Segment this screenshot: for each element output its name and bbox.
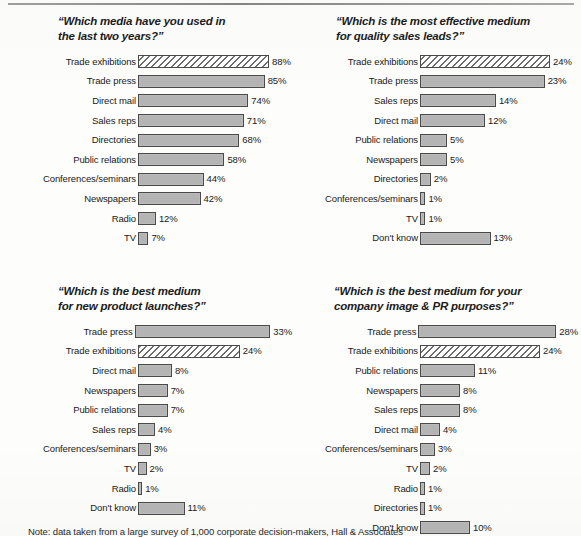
bar-value-label: 5% — [447, 155, 464, 165]
bar-value-label: 58% — [224, 155, 246, 165]
bar-category-label: Public relations — [296, 135, 420, 145]
bar-category-label: Directories — [6, 135, 138, 145]
bar-category-label: Direct mail — [296, 425, 420, 435]
bar-category-label: Sales reps — [296, 405, 420, 415]
bar-value-label: 4% — [155, 425, 172, 435]
chart-rows: Trade press28%Trade exhibitions24%Public… — [296, 322, 578, 538]
bar-category-label: TV — [296, 464, 420, 474]
bar-value-label: 88% — [269, 57, 291, 67]
bar-category-label: TV — [296, 214, 420, 224]
bar-value-label: 68% — [239, 135, 261, 145]
bar-row: TV7% — [6, 228, 292, 248]
bar-category-label: Sales reps — [6, 116, 138, 126]
bar-track: 11% — [420, 364, 578, 377]
bar-row: Radio1% — [6, 479, 292, 499]
bar-value-label: 7% — [168, 386, 185, 396]
bar-track: 44% — [138, 173, 292, 186]
bar-value-label: 4% — [440, 425, 457, 435]
bar-track: 7% — [138, 384, 292, 397]
bar-track: 4% — [420, 423, 578, 436]
bar-row: Public relations7% — [6, 400, 292, 420]
bar-value-label: 24% — [550, 57, 572, 67]
bar-track: 1% — [420, 212, 578, 225]
bar-track: 23% — [420, 75, 578, 88]
bar-track: 13% — [420, 232, 578, 245]
bar-row: Directories68% — [6, 130, 292, 150]
bar-row: Sales reps14% — [296, 91, 578, 111]
bar-track: 24% — [420, 55, 578, 68]
bar-value-label: 8% — [460, 405, 477, 415]
bar-category-label: TV — [6, 464, 138, 474]
bar-track: 42% — [138, 192, 292, 205]
bar — [138, 232, 148, 245]
chart-title: “Which is the best medium for your compa… — [296, 284, 578, 313]
bar-category-label: Don't know — [6, 503, 138, 513]
bar-track: 24% — [420, 345, 578, 358]
bar-chart-3: “Which is the best medium for your compa… — [296, 284, 578, 538]
bar-row: Direct mail4% — [296, 420, 578, 440]
bar-category-label: Sales reps — [6, 425, 138, 435]
bar-category-label: Directories — [296, 174, 420, 184]
bar-value-label: 11% — [475, 366, 496, 376]
bar-category-label: Trade exhibitions — [6, 57, 138, 67]
bar-category-label: Newspapers — [296, 386, 420, 396]
bar-value-label: 1% — [425, 484, 442, 494]
bar-row: TV1% — [296, 209, 578, 229]
bar-value-label: 3% — [435, 444, 452, 454]
bar-category-label: Newspapers — [296, 155, 420, 165]
bar-row: Newspapers7% — [6, 381, 292, 401]
bar-value-label: 5% — [447, 135, 464, 145]
bar-category-label: Trade press — [296, 327, 418, 337]
bar-category-label: Trade exhibitions — [296, 346, 420, 356]
bar-chart-1: “Which is the most effective medium for … — [296, 14, 578, 248]
bar-track: 12% — [138, 212, 292, 225]
bar — [420, 173, 431, 186]
bar — [420, 462, 430, 475]
bar-value-label: 8% — [460, 386, 477, 396]
bar-row: Sales reps4% — [6, 420, 292, 440]
bar-row: Radio12% — [6, 209, 292, 229]
bar-row: Sales reps8% — [296, 400, 578, 420]
bar-category-label: Radio — [6, 214, 138, 224]
bar-category-label: Conferences/seminars — [6, 174, 138, 184]
bar — [138, 384, 168, 397]
figure-footnote: Note: data taken from a large survey of … — [28, 526, 558, 537]
bar-highlighted — [420, 55, 550, 68]
bar-value-label: 2% — [431, 174, 448, 184]
bar-track: 2% — [138, 462, 292, 475]
bar-row: Trade exhibitions24% — [6, 342, 292, 362]
bar — [138, 404, 168, 417]
bar-category-label: Newspapers — [6, 194, 138, 204]
bar — [135, 325, 271, 338]
bar-track: 1% — [420, 502, 578, 515]
bar — [420, 153, 447, 166]
bar — [420, 232, 491, 245]
bar-category-label: Public relations — [6, 155, 138, 165]
bar-track: 58% — [138, 153, 292, 166]
bar-value-label: 1% — [425, 194, 442, 204]
bar — [138, 212, 156, 225]
bar-track: 3% — [420, 443, 578, 456]
bar-row: Trade exhibitions24% — [296, 52, 578, 72]
bar-track: 14% — [420, 94, 578, 107]
bar-track: 11% — [138, 502, 292, 515]
bar-row: Conferences/seminars1% — [296, 189, 578, 209]
bar-track: 68% — [138, 134, 292, 147]
bar-track: 33% — [135, 325, 292, 338]
bar-value-label: 8% — [172, 366, 189, 376]
bar-row: Newspapers5% — [296, 150, 578, 170]
bar-category-label: Direct mail — [6, 366, 138, 376]
bar-value-label: 33% — [270, 327, 292, 337]
bar-category-label: Radio — [6, 484, 138, 494]
bar-value-label: 12% — [156, 214, 178, 224]
bar-track: 3% — [138, 443, 292, 456]
bar-track: 74% — [138, 94, 292, 107]
bar-category-label: Trade press — [6, 76, 138, 86]
bar-track: 7% — [138, 232, 292, 245]
bar — [420, 404, 460, 417]
bar-track: 2% — [420, 173, 578, 186]
bar-track: 4% — [138, 423, 292, 436]
bar-value-label: 28% — [556, 327, 578, 337]
bar-track: 24% — [138, 345, 292, 358]
bar — [138, 114, 244, 127]
